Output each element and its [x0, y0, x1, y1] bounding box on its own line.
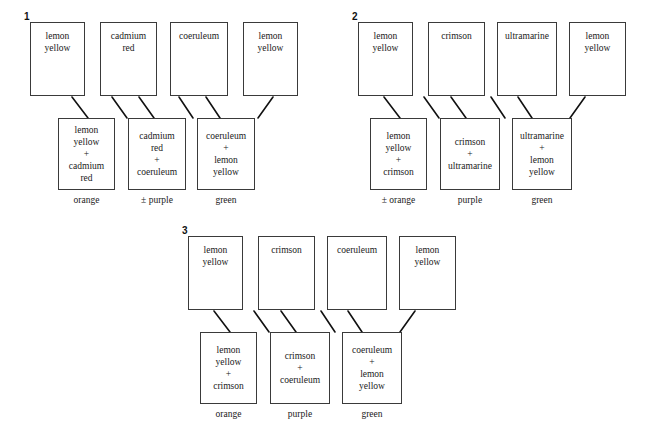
pigment-box[interactable]: lemon yellow: [358, 22, 413, 96]
mixture-box[interactable]: lemon yellow + cadmium red: [58, 118, 115, 190]
pigment-box[interactable]: lemon yellow: [243, 22, 298, 96]
pigment-box[interactable]: ultramarine: [497, 22, 557, 96]
result-label: ± orange: [370, 195, 427, 206]
result-label: green: [512, 195, 572, 206]
diagram-group-2: 2 lemon yellow crimson ultramarine lemon…: [340, 0, 662, 215]
pigment-label: crimson: [271, 244, 302, 256]
mixture-label: lemon yellow + crimson: [213, 344, 244, 392]
mixture-box[interactable]: lemon yellow + crimson: [200, 332, 257, 404]
pigment-label: lemon yellow: [415, 244, 441, 268]
pigment-label: lemon yellow: [585, 30, 611, 54]
pigment-box[interactable]: coeruleum: [327, 236, 387, 310]
mixture-label: lemon yellow + cadmium red: [69, 124, 104, 184]
mixture-box[interactable]: coeruleum + lemon yellow: [197, 118, 255, 190]
result-label: green: [342, 409, 402, 420]
pigment-label: crimson: [441, 30, 472, 42]
mixture-label: crimson + coeruleum: [280, 350, 320, 386]
pigment-label: lemon yellow: [258, 30, 284, 54]
pigment-box[interactable]: lemon yellow: [30, 22, 85, 96]
mixture-box[interactable]: lemon yellow + crimson: [370, 118, 427, 190]
mixture-label: cadmium red + coeruleum: [137, 130, 177, 178]
diagram-canvas: 1 lemon yellow cadmium red: [0, 0, 662, 433]
result-label: green: [197, 195, 255, 206]
result-label: purple: [270, 409, 330, 420]
result-label: ± purple: [128, 195, 186, 206]
mixture-box[interactable]: crimson + ultramarine: [440, 118, 500, 190]
diagram-group-3: 3 lemon yellow crimson coeruleum lemon y…: [170, 218, 500, 433]
mixture-label: lemon yellow + crimson: [383, 130, 414, 178]
pigment-box[interactable]: crimson: [428, 22, 485, 96]
pigment-box[interactable]: coeruleum: [170, 22, 228, 96]
mixture-box[interactable]: cadmium red + coeruleum: [128, 118, 186, 190]
diagram-group-1: 1 lemon yellow cadmium red: [0, 0, 330, 215]
pigment-box[interactable]: lemon yellow: [399, 236, 456, 310]
pigment-label: lemon yellow: [373, 30, 399, 54]
mixture-label: coeruleum + lemon yellow: [352, 344, 392, 392]
result-label: orange: [58, 195, 115, 206]
pigment-label: lemon yellow: [45, 30, 71, 54]
pigment-label: lemon yellow: [203, 244, 229, 268]
result-label: orange: [200, 409, 257, 420]
pigment-box[interactable]: cadmium red: [100, 22, 157, 96]
pigment-box[interactable]: lemon yellow: [569, 22, 626, 96]
mixture-label: crimson + ultramarine: [448, 136, 492, 172]
pigment-label: cadmium red: [111, 30, 146, 54]
pigment-label: ultramarine: [505, 30, 549, 42]
mixture-box[interactable]: crimson + coeruleum: [270, 332, 330, 404]
mixture-label: ultramarine + lemon yellow: [520, 130, 564, 178]
pigment-box[interactable]: lemon yellow: [188, 236, 243, 310]
group-number-1: 1: [24, 12, 30, 22]
mixture-box[interactable]: ultramarine + lemon yellow: [512, 118, 572, 190]
pigment-box[interactable]: crimson: [258, 236, 315, 310]
pigment-label: coeruleum: [337, 244, 377, 256]
mixture-box[interactable]: coeruleum + lemon yellow: [342, 332, 402, 404]
group-number-3: 3: [182, 226, 188, 236]
result-label: purple: [440, 195, 500, 206]
pigment-label: coeruleum: [179, 30, 219, 42]
group-number-2: 2: [352, 12, 358, 22]
mixture-label: coeruleum + lemon yellow: [206, 130, 246, 178]
